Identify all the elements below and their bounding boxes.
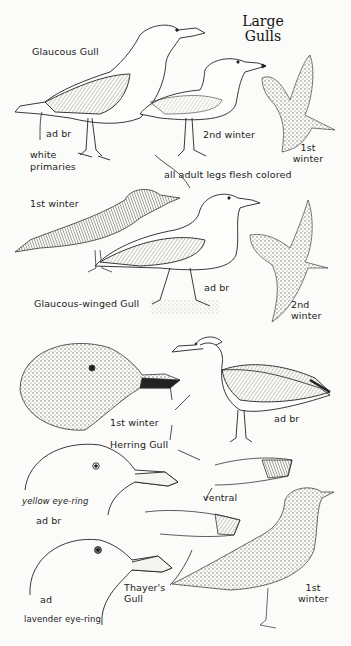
glaucous-gull-note-line-2: primaries xyxy=(30,161,76,172)
thayers-gull-species-line-1: Thayer's xyxy=(124,582,164,593)
thayers-gull-first-winter-line-1: 1st xyxy=(298,582,328,593)
thayers-gull-species-label: Thayer's Gull xyxy=(124,582,164,604)
glaucous-gull-first-winter-line-2: winter xyxy=(292,153,324,164)
glaucous-gull-species-label: Glaucous Gull xyxy=(32,46,99,57)
herring-gull-eye-ring-label: yellow eye-ring xyxy=(22,496,89,507)
herring-gull-adult-label: ad br xyxy=(274,413,299,424)
thayers-gull-first-winter-label: 1st winter xyxy=(298,582,328,604)
thayers-gull-ventral-wing-drawing xyxy=(145,510,240,536)
glaucous-gull-adult-label: ad br xyxy=(46,128,71,139)
herring-gull-ventral-wing-drawing xyxy=(215,458,292,485)
herring-gull-head-adult-label: ad br xyxy=(36,515,61,526)
thayers-gull-first-winter-line-2: winter xyxy=(298,593,328,604)
glaucous-winged-gull-first-winter-label: 1st winter xyxy=(30,198,79,209)
page-title-line-1: Large xyxy=(237,14,289,29)
glaucous-winged-gull-second-winter-line-2: winter xyxy=(291,310,327,321)
thayers-gull-head-adult-label: ad xyxy=(40,594,52,605)
herring-gull-adult-drawing xyxy=(172,337,330,442)
thayers-gull-eye-ring-label: lavender eye-ring xyxy=(24,614,101,625)
glaucous-winged-gull-second-winter-line-1: 2nd xyxy=(291,299,327,310)
glaucous-winged-gull-adult-label: ad br xyxy=(204,282,229,293)
thayers-gull-species-line-2: Gull xyxy=(124,593,164,604)
legs-note-label: all adult legs flesh colored xyxy=(164,169,292,180)
page-title-line-2: Gulls xyxy=(237,29,289,44)
glaucous-gull-first-winter-label: 1st winter xyxy=(292,142,324,164)
glaucous-winged-gull-species-label: Glaucous-winged Gull xyxy=(34,298,139,309)
herring-gull-species-label: Herring Gull xyxy=(110,439,168,450)
glaucous-gull-second-winter-label: 2nd winter xyxy=(203,129,255,140)
thayers-gull-first-winter-drawing xyxy=(172,488,334,628)
illustration-canvas xyxy=(0,0,351,646)
herring-gull-ventral-label: ventral xyxy=(203,492,237,503)
glaucous-gull-first-winter-flight-drawing xyxy=(262,55,335,152)
herring-gull-first-winter-label: 1st winter xyxy=(110,417,159,428)
glaucous-winged-gull-second-winter-label: 2nd winter xyxy=(291,299,327,321)
glaucous-gull-note-line-1: white xyxy=(30,149,57,160)
glaucous-gull-first-winter-line-1: 1st xyxy=(292,142,324,153)
page-title: Large Gulls xyxy=(237,14,289,44)
